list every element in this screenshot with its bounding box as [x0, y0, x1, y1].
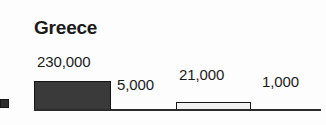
bar-value-label: 1,000 — [262, 73, 299, 90]
bar-value-label: 230,000 — [37, 53, 91, 70]
cropped-neighbor-bar-fragment — [0, 99, 9, 108]
bar-chart-figure: Greece 230,000 5,000 21,000 1,000 — [0, 0, 326, 125]
bar-230000 — [34, 81, 111, 110]
axis-baseline — [34, 109, 321, 111]
bar-value-label: 5,000 — [117, 76, 154, 93]
bar-value-label: 21,000 — [179, 66, 224, 83]
plot-area: 230,000 5,000 21,000 1,000 — [0, 0, 326, 125]
